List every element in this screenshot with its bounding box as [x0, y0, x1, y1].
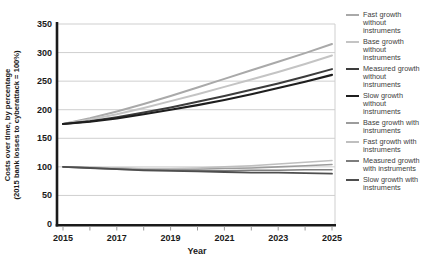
legend-swatch: [346, 95, 359, 97]
x-tick-label: 2017: [107, 233, 127, 243]
legend-label: Fast growth without instruments: [363, 11, 426, 35]
legend-label: Slow growth with instruments: [363, 176, 426, 192]
series-line: [63, 161, 332, 169]
legend-item: Measured growth with instruments: [346, 157, 426, 173]
legend-swatch: [346, 179, 359, 181]
legend-swatch: [346, 41, 359, 43]
y-tick-label: 250: [37, 76, 52, 86]
legend-label: Fast growth with instruments: [363, 138, 426, 154]
legend-label: Measured growth with instruments: [363, 157, 426, 173]
legend-swatch: [346, 122, 359, 124]
x-tick-label: 2021: [214, 233, 234, 243]
y-axis-label: Costs over time, by percentage (2015 ban…: [4, 24, 28, 226]
y-tick-label: 150: [37, 133, 52, 143]
legend-item: Fast growth with instruments: [346, 138, 426, 154]
x-tick-label: 2025: [322, 233, 342, 243]
y-tick-label: 0: [47, 219, 52, 229]
y-axis-label-line2: (2015 bank losses to cyberattack = 100%): [13, 24, 22, 226]
legend-item: Fast growth without instruments: [346, 11, 426, 35]
legend-item: Slow growth with instruments: [346, 176, 426, 192]
legend-item: Measured growth without instruments: [346, 65, 426, 89]
chart-figure: 0501001502002503003502015201720192021202…: [0, 0, 427, 262]
legend-swatch: [346, 160, 359, 162]
chart-legend: Fast growth without instrumentsBase grow…: [346, 11, 426, 192]
x-tick-label: 2023: [268, 233, 288, 243]
legend-item: Base growth with instruments: [346, 119, 426, 135]
y-tick-label: 50: [42, 190, 52, 200]
legend-swatch: [346, 14, 359, 16]
legend-label: Measured growth without instruments: [363, 65, 426, 89]
legend-item: Base growth without instruments: [346, 38, 426, 62]
x-tick-label: 2019: [161, 233, 181, 243]
y-tick-label: 300: [37, 48, 52, 58]
legend-swatch: [346, 141, 359, 143]
y-tick-label: 100: [37, 162, 52, 172]
x-axis-label: Year: [56, 246, 338, 256]
y-tick-label: 200: [37, 105, 52, 115]
legend-item: Slow growth without instruments: [346, 92, 426, 116]
y-tick-label: 350: [37, 19, 52, 29]
series-line: [63, 55, 332, 124]
legend-swatch: [346, 68, 359, 70]
legend-label: Base growth with instruments: [363, 119, 426, 135]
legend-label: Slow growth without instruments: [363, 92, 426, 116]
x-tick-label: 2015: [53, 233, 73, 243]
legend-label: Base growth without instruments: [363, 38, 426, 62]
